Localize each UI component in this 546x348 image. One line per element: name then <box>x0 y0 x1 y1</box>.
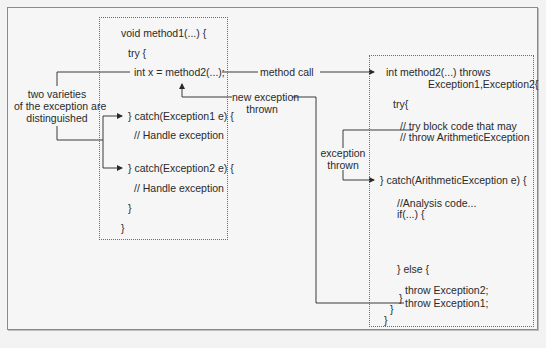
label-line: distinguished <box>14 112 100 124</box>
code-line: if(...) { <box>397 208 424 220</box>
label-line: of the exception are <box>14 100 100 112</box>
code-line: } catch(Exception1 e) { <box>128 110 234 122</box>
code-line: // Handle exception <box>134 129 224 141</box>
label-line: new exception <box>232 91 292 103</box>
code-line: // Handle exception <box>134 182 224 194</box>
code-line: } else { <box>397 263 429 275</box>
code-line: throw Exception2; <box>405 284 488 296</box>
code-line: Exception1,Exception2{ <box>428 78 538 90</box>
label-line: exception <box>320 147 366 159</box>
code-line: } catch(ArithmeticException e) { <box>380 174 526 186</box>
code-line: } <box>128 202 132 214</box>
code-line: } <box>384 314 388 326</box>
label-line: two varieties <box>14 88 100 100</box>
label-exception-thrown: exception thrown <box>320 147 366 171</box>
code-line: } <box>390 303 394 315</box>
label-line: thrown <box>320 159 366 171</box>
code-line: int method2(...) throws <box>386 66 490 78</box>
code-line: throw Exception1; <box>405 297 488 309</box>
code-line: // throw ArithmeticException <box>400 131 530 143</box>
code-line: try { <box>128 47 146 59</box>
code-line: void method1(...) { <box>121 27 206 39</box>
code-line: int x = method2(...); <box>134 66 225 78</box>
label-two-varieties: two varieties of the exception are disti… <box>14 88 100 124</box>
code-line: } <box>121 222 125 234</box>
code-line: } catch(Exception2 e) { <box>128 162 234 174</box>
label-new-exception: new exception thrown <box>232 91 292 115</box>
label-line: thrown <box>232 103 292 115</box>
label-method-call: method call <box>260 66 314 78</box>
code-line: try{ <box>393 98 408 110</box>
code-line: } <box>399 292 403 304</box>
